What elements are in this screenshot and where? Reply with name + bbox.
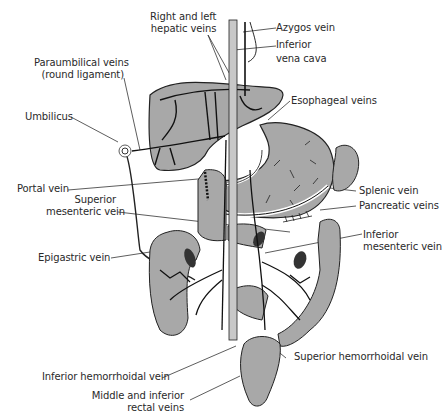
duodenum bbox=[198, 170, 226, 241]
spleen bbox=[333, 145, 359, 191]
label-umbilicus: Umbilicus bbox=[25, 111, 73, 123]
descending-colon bbox=[278, 219, 340, 346]
inferior-vena-cava bbox=[229, 20, 237, 340]
stomach bbox=[222, 123, 334, 218]
ascending-colon bbox=[149, 231, 200, 336]
umbilicus bbox=[119, 145, 131, 157]
label-right-left-hepatic-veins: Right and left hepatic veins bbox=[150, 11, 216, 35]
label-pancreatic-veins: Pancreatic veins bbox=[359, 200, 439, 212]
label-epigastric-vein: Epigastric vein bbox=[38, 252, 110, 264]
label-superior-hemorrhoidal-vein: Superior hemorrhoidal vein bbox=[294, 351, 428, 363]
label-esophageal-veins: Esophageal veins bbox=[291, 95, 377, 107]
label-middle-inferior-rectal-veins: Middle and inferior rectal veins bbox=[86, 390, 184, 414]
portal-venous-diagram: Right and left hepatic veins Azygos vein… bbox=[0, 0, 446, 417]
label-azygos-vein: Azygos vein bbox=[276, 22, 335, 34]
label-inferior-mesenteric-vein: Inferior mesenteric vein bbox=[363, 229, 442, 253]
label-splenic-vein: Splenic vein bbox=[359, 185, 418, 197]
label-superior-mesenteric-vein: Superior mesenteric vein bbox=[46, 194, 116, 218]
rectum bbox=[241, 337, 281, 407]
label-inferior-vena-cava: Inferior vena cava bbox=[276, 39, 327, 65]
label-paraumbilical-veins: Paraumbilical veins (round ligament) bbox=[34, 57, 124, 81]
label-inferior-hemorrhoidal-vein: Inferior hemorrhoidal vein bbox=[42, 371, 170, 383]
